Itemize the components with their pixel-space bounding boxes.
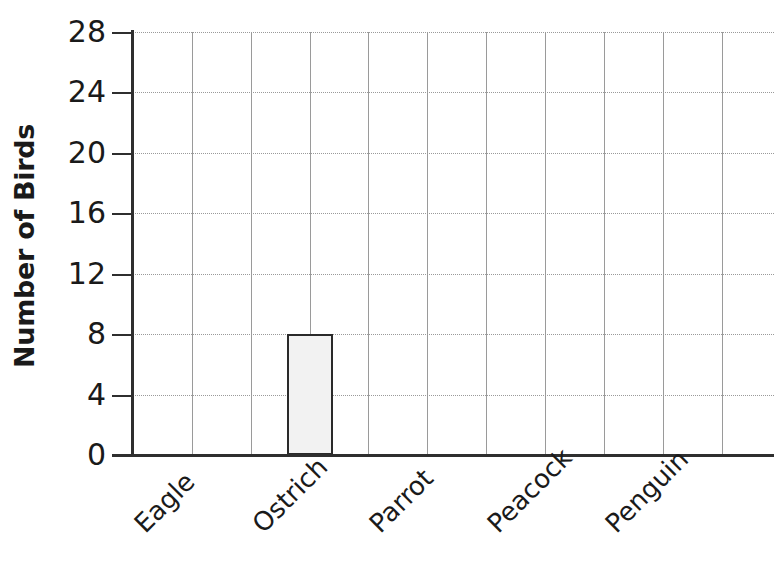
x-axis-category-label: Eagle — [130, 468, 199, 537]
gridline-horizontal — [133, 213, 774, 214]
gridline-horizontal — [133, 32, 774, 33]
gridline-vertical — [192, 32, 193, 455]
gridline-horizontal — [133, 395, 774, 396]
bar-chart: Number of Birds 0481216202428 EagleOstri… — [0, 0, 774, 576]
y-axis-tick-label: 8 — [16, 319, 106, 349]
y-axis-line — [131, 30, 134, 457]
bar — [287, 334, 333, 455]
y-axis-tick-label: 28 — [16, 17, 106, 47]
gridline-horizontal — [133, 334, 774, 335]
gridline-horizontal — [133, 153, 774, 154]
gridline-vertical — [663, 32, 664, 455]
y-axis-tick-label: 16 — [16, 198, 106, 228]
gridline-vertical — [427, 32, 428, 455]
gridline-horizontal — [133, 274, 774, 275]
x-axis-category-label: Parrot — [365, 464, 438, 537]
gridline-vertical — [251, 32, 252, 455]
x-axis-category-label: Penguin — [600, 445, 692, 537]
gridline-vertical — [486, 32, 487, 455]
plot-area — [133, 32, 774, 455]
gridline-vertical — [545, 32, 546, 455]
y-axis-tick-label: 12 — [16, 259, 106, 289]
y-axis-tick-label: 0 — [16, 440, 106, 470]
gridline-horizontal — [133, 92, 774, 93]
y-axis-tick-label: 4 — [16, 380, 106, 410]
y-axis-tick-labels: 0481216202428 — [10, 0, 106, 576]
y-axis-tick-label: 24 — [16, 77, 106, 107]
x-axis-category-label: Ostrich — [247, 453, 331, 537]
gridline-vertical — [604, 32, 605, 455]
gridline-vertical — [722, 32, 723, 455]
y-axis-tick-label: 20 — [16, 138, 106, 168]
x-axis-category-label: Peacock — [483, 444, 577, 538]
gridline-vertical — [368, 32, 369, 455]
